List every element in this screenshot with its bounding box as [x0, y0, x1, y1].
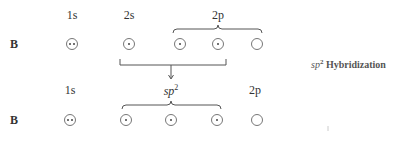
diagram-lines: [0, 0, 409, 142]
caption-text: Hybridization: [323, 59, 386, 70]
orbital-2p-z-top: [251, 38, 263, 50]
orbital-2p-y-top: [212, 38, 224, 50]
label-text: 1s: [65, 83, 76, 97]
label-text: 2s: [124, 8, 135, 22]
label-2s-top: 2s: [124, 8, 135, 23]
orbital-1s-bottom: [64, 114, 76, 126]
label-text: 2p: [249, 83, 261, 97]
label-1s-top: 1s: [67, 8, 78, 23]
label-sup: 2: [174, 83, 178, 92]
label-text: 1s: [67, 8, 78, 22]
bracket-combine: [120, 59, 226, 65]
orbital-2p-bottom: [251, 114, 263, 126]
label-text: 2p: [212, 8, 224, 22]
orbital-sp2-2: [165, 114, 177, 126]
label-2p-top: 2p: [212, 8, 224, 23]
label-sp2-bottom: sp2: [164, 83, 179, 99]
element-label-top: B: [10, 37, 18, 52]
brace-2p-top: [173, 25, 262, 33]
label-2p-bottom: 2p: [249, 83, 261, 98]
orbital-sp2-3: [211, 114, 223, 126]
orbital-2s-top: [123, 38, 135, 50]
orbital-2p-x-top: [174, 38, 186, 50]
brace-sp2-bottom: [122, 101, 221, 109]
orbital-sp2-1: [120, 114, 132, 126]
label-text: sp: [164, 84, 175, 98]
label-1s-bottom: 1s: [65, 83, 76, 98]
caption-prefix: sp: [311, 59, 320, 70]
orbital-1s-top: [66, 38, 78, 50]
element-label-bottom: B: [10, 113, 18, 128]
caption-hybridization: sp2 Hybridization: [311, 58, 386, 70]
